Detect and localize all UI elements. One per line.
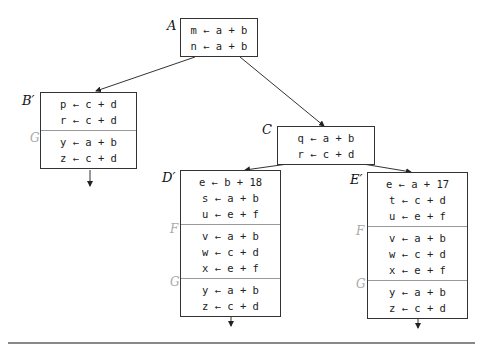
code-line: z ← c + d <box>368 300 467 316</box>
code-line: y ← a + b <box>41 134 136 150</box>
code-line: v ← a + b <box>181 228 280 244</box>
block-b-prime: p ← c + d r ← c + d y ← a + b z ← c + d <box>40 92 137 169</box>
block-e-section-0: e ← a + 17 t ← c + d u ← e + f <box>368 173 467 226</box>
block-d-label: D′ <box>162 170 175 185</box>
block-d-section-0: e ← b + 18 s ← a + b u ← e + f <box>181 171 280 224</box>
block-d-prime: e ← b + 18 s ← a + b u ← e + f v ← a + b… <box>180 170 281 317</box>
code-line: r ← c + d <box>278 146 374 162</box>
code-line: v ← a + b <box>368 230 467 246</box>
code-line: x ← e + f <box>181 260 280 276</box>
code-line: e ← a + 17 <box>368 176 467 192</box>
code-line: r ← c + d <box>41 112 136 128</box>
code-line: u ← e + f <box>181 206 280 222</box>
edge-A-B <box>96 57 195 91</box>
block-b-section-0: p ← c + d r ← c + d <box>41 93 136 130</box>
block-a-section: m ← a + b n ← a + b <box>181 19 257 56</box>
code-line: e ← b + 18 <box>181 174 280 190</box>
block-c: q ← a + b r ← c + d <box>277 126 375 165</box>
horizontal-rule <box>8 342 475 344</box>
code-line: y ← a + b <box>181 282 280 298</box>
code-line: z ← c + d <box>181 298 280 314</box>
code-line: t ← c + d <box>368 192 467 208</box>
block-a-label: A <box>167 18 176 33</box>
code-line: m ← a + b <box>181 22 257 38</box>
block-c-section: q ← a + b r ← c + d <box>278 127 374 164</box>
block-b-label: B′ <box>22 93 35 108</box>
block-e-section-f: v ← a + b w ← c + d x ← e + f <box>368 226 467 280</box>
block-e-label: E′ <box>350 172 362 187</box>
code-line: z ← c + d <box>41 150 136 166</box>
block-a: m ← a + b n ← a + b <box>180 18 258 57</box>
block-d-section-g: y ← a + b z ← c + d <box>181 278 280 316</box>
section-f-label: F <box>170 222 178 236</box>
section-f-label: F <box>356 224 364 238</box>
code-line: q ← a + b <box>278 130 374 146</box>
block-d-section-f: v ← a + b w ← c + d x ← e + f <box>181 224 280 278</box>
code-line: w ← c + d <box>368 246 467 262</box>
code-line: w ← c + d <box>181 244 280 260</box>
code-line: n ← a + b <box>181 38 257 54</box>
section-g-label: G <box>356 277 366 291</box>
block-b-section-g: y ← a + b z ← c + d <box>41 130 136 168</box>
code-line: y ← a + b <box>368 284 467 300</box>
section-g-label: G <box>30 131 40 145</box>
block-c-label: C <box>262 122 272 137</box>
edge-A-C <box>240 57 324 126</box>
code-line: p ← c + d <box>41 96 136 112</box>
code-line: s ← a + b <box>181 190 280 206</box>
block-e-prime: e ← a + 17 t ← c + d u ← e + f v ← a + b… <box>367 172 468 319</box>
section-g-label: G <box>170 275 180 289</box>
block-e-section-g: y ← a + b z ← c + d <box>368 280 467 318</box>
code-line: u ← e + f <box>368 208 467 224</box>
code-line: x ← e + f <box>368 262 467 278</box>
